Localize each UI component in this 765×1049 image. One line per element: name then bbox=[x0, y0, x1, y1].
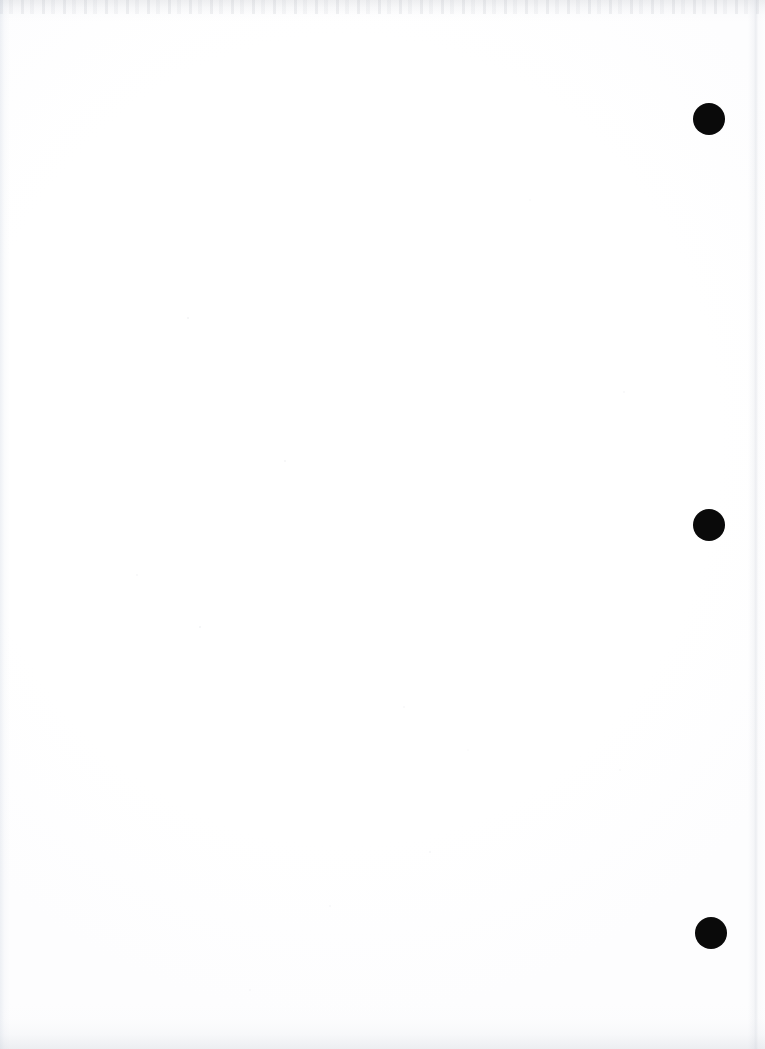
dot-2 bbox=[693, 509, 725, 541]
top-edge-noise-artifact bbox=[0, 0, 765, 22]
right-edge-seam-artifact bbox=[748, 0, 765, 1049]
dot-3 bbox=[695, 917, 727, 949]
scanned-page bbox=[0, 0, 765, 1049]
paper-speckle-artifact bbox=[0, 0, 765, 1049]
bottom-edge-gradient-artifact bbox=[0, 1003, 765, 1049]
paper-surface bbox=[0, 0, 765, 1049]
dot-1 bbox=[693, 103, 725, 135]
left-edge-tint-artifact bbox=[0, 0, 10, 1049]
